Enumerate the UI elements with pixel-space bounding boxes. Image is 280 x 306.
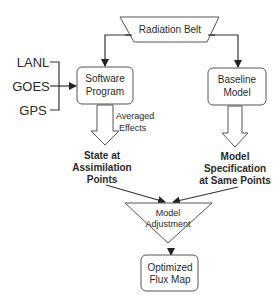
- node-baseline-model: Baseline Model: [208, 68, 266, 105]
- averaged-effects-line1: Averaged: [116, 111, 154, 121]
- software-program-line1: Software: [85, 73, 125, 84]
- model-adjustment-line2: Adjustment: [145, 219, 191, 229]
- averaged-effects-line2: Effects: [119, 123, 147, 133]
- source-lanl: LANL: [17, 55, 50, 70]
- node-software-program: Software Program: [77, 67, 133, 104]
- state-line1: State at: [84, 150, 121, 161]
- state-line2: Assimilation: [72, 162, 131, 173]
- source-gps: GPS: [19, 103, 47, 118]
- edge-state-to-adjustment: [106, 185, 165, 202]
- baseline-model-line2: Model: [223, 87, 250, 98]
- flux-map-line2: Flux Map: [149, 274, 191, 285]
- model-spec-line1: Model: [221, 151, 250, 162]
- node-radiation-belt: Radiation Belt: [120, 17, 219, 42]
- edge-belt-to-baseline: [210, 35, 238, 67]
- radiation-belt-label: Radiation Belt: [139, 24, 201, 35]
- flowchart-canvas: Radiation Belt LANL GOES GPS Software Pr…: [0, 0, 280, 306]
- model-spec-line2: Specification: [204, 163, 266, 174]
- state-line3: Points: [87, 174, 118, 185]
- flux-map-line1: Optimized: [147, 262, 192, 273]
- node-model-adjustment: Model Adjustment: [125, 203, 212, 243]
- output-state: State at Assimilation Points: [72, 150, 131, 185]
- software-program-line2: Program: [86, 86, 124, 97]
- edge-belt-to-software: [105, 35, 130, 66]
- data-sources: LANL GOES GPS: [12, 55, 76, 118]
- output-model-spec: Model Specification at Same Points: [199, 151, 271, 186]
- block-arrow-left: [91, 105, 119, 145]
- node-optimized-flux-map: Optimized Flux Map: [141, 255, 198, 291]
- baseline-model-line1: Baseline: [218, 74, 257, 85]
- model-adjustment-line1: Model: [156, 208, 181, 218]
- block-arrow-right: [222, 106, 248, 147]
- edge-spec-to-adjustment: [173, 187, 238, 202]
- model-spec-line3: at Same Points: [199, 175, 271, 186]
- source-goes: GOES: [12, 79, 50, 94]
